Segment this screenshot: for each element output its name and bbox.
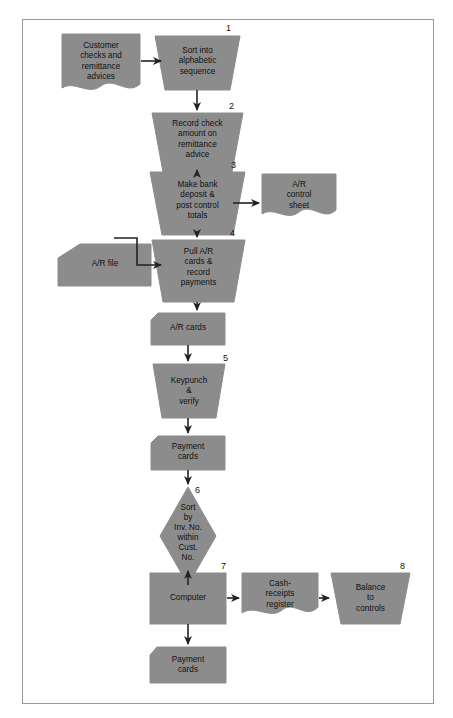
node-payment-cards-bottom (150, 647, 226, 683)
step-number-2: 2 (229, 102, 234, 111)
step-number-8: 8 (400, 562, 405, 571)
flowchart-page: Customer checks and remittance advices S… (0, 0, 453, 718)
step-number-7: 7 (221, 562, 226, 571)
node-payment-cards-top (151, 436, 225, 470)
step-number-3: 3 (231, 161, 236, 170)
node-balance-to-controls (331, 573, 410, 624)
step-number-1: 1 (226, 24, 231, 33)
node-customer-checks (62, 34, 140, 89)
node-pull-ar-cards (152, 240, 245, 302)
node-keypunch-verify (153, 364, 225, 418)
node-record-check-amount (152, 113, 243, 172)
node-sort-by-invoice (160, 487, 216, 585)
node-ar-cards (151, 313, 225, 345)
node-ar-control-sheet (262, 174, 336, 215)
node-make-bank-deposit (150, 172, 245, 235)
step-number-6: 6 (195, 486, 200, 495)
node-sort-alphabetic (155, 36, 240, 90)
node-cash-receipts-register (242, 573, 318, 613)
step-number-5: 5 (223, 354, 228, 363)
step-number-4: 4 (230, 229, 235, 238)
